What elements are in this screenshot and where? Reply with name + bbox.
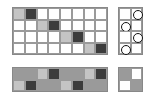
top-grid-cell (25, 43, 37, 55)
bottom-grid-cell (13, 80, 25, 92)
circle-grid-cell (131, 8, 143, 20)
top-grid-cell (84, 31, 96, 43)
circle-grid-cell (119, 20, 131, 32)
top-grid-cell (48, 8, 60, 20)
circle-grid-cell (119, 31, 131, 43)
top-grid-cell (72, 43, 84, 55)
top-grid-cell (60, 8, 72, 20)
top-grid-cell (60, 43, 72, 55)
checker-cell (131, 80, 143, 92)
circle-grid-cell (131, 43, 143, 55)
top-grid-cell (72, 8, 84, 20)
top-grid-cell (72, 31, 84, 43)
bottom-grid-cell (60, 80, 72, 92)
bottom-grid-cell (13, 68, 25, 80)
bottom-pattern-grid (12, 67, 108, 92)
checker-cell (131, 68, 143, 80)
circle-icon (121, 22, 131, 32)
top-grid-cell (13, 31, 25, 43)
bottom-grid-cell (37, 68, 49, 80)
top-grid-cell (95, 31, 107, 43)
top-grid-cell (84, 43, 96, 55)
bottom-grid-cell (95, 80, 107, 92)
bottom-grid-cell (25, 80, 37, 92)
top-grid-cell (84, 20, 96, 32)
top-grid-cell (37, 43, 49, 55)
top-pattern-grid (12, 7, 108, 55)
top-grid-cell (95, 43, 107, 55)
top-grid-cell (13, 43, 25, 55)
top-grid-cell (37, 8, 49, 20)
bottom-grid-cell (72, 80, 84, 92)
circle-icon (121, 45, 131, 55)
circle-icon (133, 10, 143, 20)
bottom-grid-cell (72, 68, 84, 80)
checker-grid (118, 67, 143, 92)
top-grid-cell (48, 43, 60, 55)
bottom-grid-cell (37, 80, 49, 92)
bottom-grid-cell (48, 68, 60, 80)
top-grid-cell (60, 20, 72, 32)
top-grid-cell (72, 20, 84, 32)
bottom-grid-cell (84, 68, 96, 80)
circle-marker-grid (118, 7, 143, 55)
circle-grid-cell (119, 43, 131, 55)
circle-grid-cell (131, 20, 143, 32)
checker-cell (119, 80, 131, 92)
top-grid-cell (95, 20, 107, 32)
bottom-grid-cell (95, 68, 107, 80)
top-grid-cell (95, 8, 107, 20)
top-grid-cell (84, 8, 96, 20)
bottom-grid-cell (25, 68, 37, 80)
top-grid-cell (25, 8, 37, 20)
bottom-grid-cell (48, 80, 60, 92)
circle-grid-cell (131, 31, 143, 43)
top-grid-cell (48, 31, 60, 43)
top-grid-cell (13, 20, 25, 32)
top-grid-cell (48, 20, 60, 32)
top-grid-cell (37, 20, 49, 32)
top-grid-cell (25, 20, 37, 32)
top-grid-cell (37, 31, 49, 43)
top-grid-cell (60, 31, 72, 43)
top-grid-cell (13, 8, 25, 20)
checker-cell (119, 68, 131, 80)
bottom-grid-cell (84, 80, 96, 92)
circle-grid-cell (119, 8, 131, 20)
top-grid-cell (25, 31, 37, 43)
circle-icon (133, 33, 143, 43)
bottom-grid-cell (60, 68, 72, 80)
